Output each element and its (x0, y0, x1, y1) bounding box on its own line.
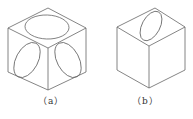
panel-label-a: （a） (38, 94, 64, 107)
panel-label-b: （b） (132, 94, 159, 107)
circle-top-face (25, 14, 70, 40)
cube-a (8, 8, 87, 90)
figure-canvas (0, 0, 193, 119)
circle-left-face (8, 38, 45, 82)
cube-b (117, 8, 185, 88)
